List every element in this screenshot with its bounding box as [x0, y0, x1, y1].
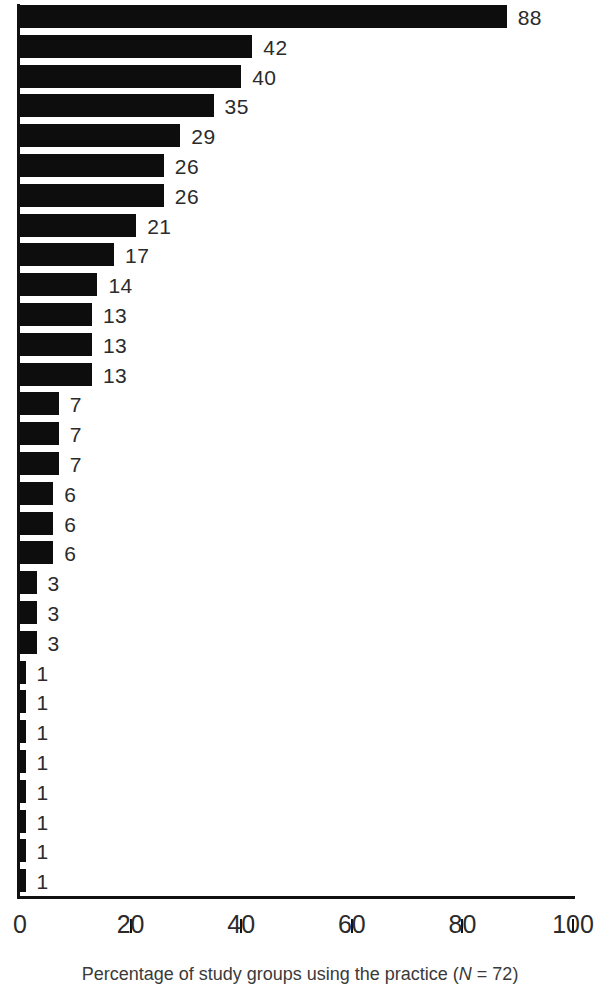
bar-value-label: 1: [37, 781, 49, 804]
bar-row: 13: [20, 363, 600, 386]
bar-row: 17: [20, 243, 600, 266]
bar: [20, 422, 59, 445]
bar: [20, 154, 164, 177]
bar: [20, 333, 92, 356]
x-axis: 020406080100: [0, 896, 600, 936]
bar-value-label: 35: [225, 95, 249, 118]
bar-row: 13: [20, 333, 600, 356]
bar: [20, 273, 97, 296]
bar-value-label: 26: [175, 155, 199, 178]
bar: [20, 35, 252, 58]
bar-row: 35: [20, 94, 600, 117]
bar-row: 29: [20, 124, 600, 147]
bar-row: 40: [20, 65, 600, 88]
caption-text-before: Percentage of study groups using the pra…: [82, 964, 459, 984]
bar-row: 14: [20, 273, 600, 296]
bar-row: 26: [20, 154, 600, 177]
bar: [20, 869, 26, 892]
x-tick-label: 0: [13, 910, 27, 938]
bar-row: 7: [20, 392, 600, 415]
bar: [20, 303, 92, 326]
bar-row: 6: [20, 512, 600, 535]
bar-row: 1: [20, 661, 600, 684]
x-axis-line: [17, 896, 575, 899]
bar-row: 3: [20, 631, 600, 654]
plot-area: 8842403529262621171413131377766633311111…: [0, 0, 600, 900]
bar-row: 7: [20, 422, 600, 445]
bar-row: 13: [20, 303, 600, 326]
bar-value-label: 3: [48, 632, 60, 655]
bar-value-label: 6: [64, 483, 76, 506]
bar-row: 1: [20, 869, 600, 892]
bar: [20, 184, 164, 207]
bar-value-label: 1: [37, 721, 49, 744]
bar-row: 1: [20, 780, 600, 803]
bar: [20, 839, 26, 862]
bar-row: 6: [20, 541, 600, 564]
bar-row: 3: [20, 571, 600, 594]
bar-value-label: 29: [191, 125, 215, 148]
bar: [20, 512, 53, 535]
bar-row: 1: [20, 810, 600, 833]
x-tick-label: 40: [227, 910, 255, 938]
x-tick-label: 80: [448, 910, 476, 938]
bar-value-label: 88: [518, 6, 542, 29]
bar: [20, 124, 180, 147]
bar-row: 1: [20, 690, 600, 713]
bar: [20, 214, 136, 237]
caption-text-after: = 72): [472, 964, 519, 984]
bar: [20, 541, 53, 564]
bar: [20, 94, 214, 117]
bar-chart: 8842403529262621171413131377766633311111…: [0, 0, 600, 1002]
bar-row: 6: [20, 482, 600, 505]
bar-value-label: 7: [70, 453, 82, 476]
bar-value-label: 1: [37, 811, 49, 834]
bar-value-label: 42: [263, 36, 287, 59]
bar: [20, 720, 26, 743]
bar-row: 88: [20, 5, 600, 28]
bar-row: 1: [20, 720, 600, 743]
bar-value-label: 1: [37, 662, 49, 685]
bar-value-label: 6: [64, 513, 76, 536]
bar-value-label: 13: [103, 304, 127, 327]
bar-value-label: 7: [70, 393, 82, 416]
bar-value-label: 17: [125, 244, 149, 267]
bar: [20, 363, 92, 386]
x-tick-label: 100: [552, 910, 594, 938]
bar-value-label: 7: [70, 423, 82, 446]
x-tick-label: 60: [338, 910, 366, 938]
bar: [20, 571, 37, 594]
bar: [20, 810, 26, 833]
bar-row: 42: [20, 35, 600, 58]
bar-value-label: 13: [103, 334, 127, 357]
x-axis-caption: Percentage of study groups using the pra…: [0, 962, 600, 986]
bar: [20, 601, 37, 624]
bar-value-label: 21: [147, 215, 171, 238]
bar: [20, 392, 59, 415]
bar: [20, 243, 114, 266]
bar-value-label: 13: [103, 364, 127, 387]
bar: [20, 5, 507, 28]
bar-row: 7: [20, 452, 600, 475]
bar-value-label: 14: [108, 274, 132, 297]
bar: [20, 661, 26, 684]
bar: [20, 482, 53, 505]
bar-row: 1: [20, 750, 600, 773]
caption-italic-symbol: N: [459, 964, 472, 984]
bar: [20, 65, 241, 88]
bar-value-label: 3: [48, 602, 60, 625]
bar-value-label: 1: [37, 840, 49, 863]
bar-row: 3: [20, 601, 600, 624]
x-tick-label: 20: [117, 910, 145, 938]
bar: [20, 750, 26, 773]
bar: [20, 631, 37, 654]
bar-row: 21: [20, 214, 600, 237]
bar-row: 26: [20, 184, 600, 207]
bar: [20, 690, 26, 713]
bar: [20, 780, 26, 803]
bar-row: 1: [20, 839, 600, 862]
bar: [20, 452, 59, 475]
bar-value-label: 1: [37, 751, 49, 774]
bar-value-label: 6: [64, 542, 76, 565]
bar-value-label: 40: [252, 66, 276, 89]
